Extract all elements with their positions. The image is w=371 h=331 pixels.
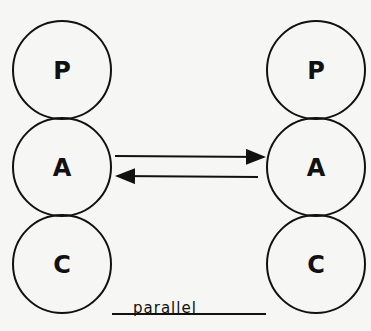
right-parent-label: P	[307, 57, 325, 85]
left-adult-label: A	[53, 154, 72, 182]
left-child-label: C	[53, 251, 71, 279]
diagram-canvas: P A C P A C parallel	[0, 0, 371, 331]
arrow-right-icon	[115, 156, 264, 157]
transaction-diagram: P A C P A C parallel	[0, 0, 371, 331]
right-child-label: C	[307, 251, 325, 279]
right-adult-label: A	[307, 154, 326, 182]
left-parent-label: P	[53, 57, 71, 85]
arrow-left-icon	[117, 176, 258, 177]
